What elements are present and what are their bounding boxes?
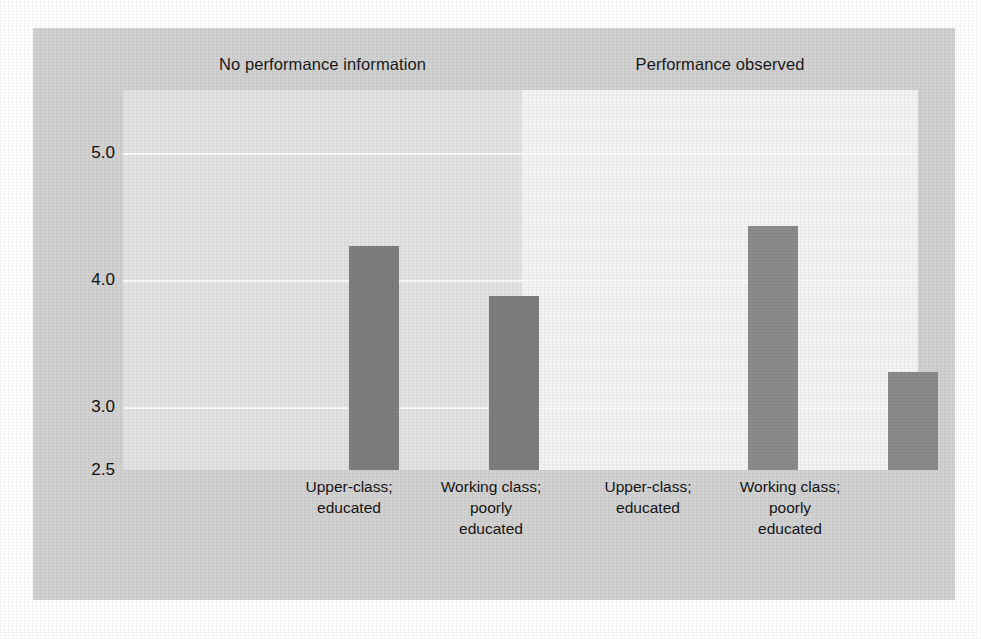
category-label-right-1: Working class; poorly educated (705, 476, 875, 539)
category-label-line: poorly (406, 497, 576, 518)
y-axis: 5.0 4.0 3.0 2.5 (45, 90, 115, 470)
panel-title-right: Performance observed (522, 55, 918, 74)
bar-p1-1[interactable] (888, 372, 938, 470)
gridline-0 (123, 153, 918, 155)
bar-p0-0[interactable] (349, 246, 399, 470)
plot-area (123, 90, 918, 470)
category-label-left-1: Working class; poorly educated (406, 476, 576, 539)
y-tick-label-3: 2.5 (55, 460, 115, 480)
category-label-line: educated (705, 518, 875, 539)
bar-p1-0[interactable] (748, 226, 798, 470)
y-tick-label-0: 5.0 (55, 143, 115, 163)
category-label-line: Working class; (705, 476, 875, 497)
x-axis: Upper-class; educated Working class; poo… (123, 476, 918, 572)
figure-root: No performance information Performance o… (0, 0, 981, 639)
panel-title-left: No performance information (123, 55, 522, 74)
category-label-line: poorly (705, 497, 875, 518)
y-tick-label-2: 3.0 (55, 397, 115, 417)
bar-p0-1[interactable] (489, 296, 539, 470)
y-tick-label-1: 4.0 (55, 270, 115, 290)
category-label-line: educated (406, 518, 576, 539)
gridline-1 (123, 280, 918, 282)
category-label-line: Working class; (406, 476, 576, 497)
